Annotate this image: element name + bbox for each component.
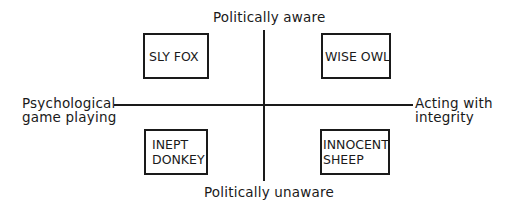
quadrant-box-inept-donkey: INEPT DONKEY	[144, 129, 208, 175]
axis-label-politically-unaware: Politically unaware	[204, 185, 334, 199]
axis-label-line: integrity	[415, 110, 493, 124]
quadrant-label: SLY FOX	[149, 49, 207, 64]
quadrant-box-innocent-sheep: INNOCENT SHEEP	[320, 129, 390, 175]
quadrant-label: SHEEP	[323, 152, 388, 167]
axis-label-acting-with-integrity: Acting with integrity	[415, 96, 493, 124]
axis-label-line: game playing	[22, 110, 116, 124]
horizontal-axis-line	[114, 104, 413, 106]
quadrant-box-sly-fox: SLY FOX	[143, 33, 209, 79]
axis-label-line: Psychological	[22, 96, 116, 110]
axis-label-psychological-game-playing: Psychological game playing	[22, 96, 116, 124]
quadrant-label: WISE OWL	[325, 49, 389, 64]
quadrant-label: INNOCENT	[323, 137, 388, 152]
quadrant-label: INEPT	[152, 137, 206, 152]
axis-label-politically-aware: Politically aware	[213, 10, 326, 24]
axis-label-line: Acting with	[415, 96, 493, 110]
quadrant-label: DONKEY	[152, 152, 206, 167]
quadrant-box-wise-owl: WISE OWL	[321, 33, 391, 79]
